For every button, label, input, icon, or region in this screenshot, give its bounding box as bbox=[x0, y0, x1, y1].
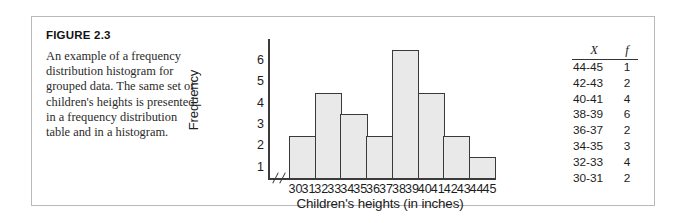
x-axis-tick-45: 45 bbox=[481, 182, 499, 196]
table-row: 32-334 bbox=[572, 155, 638, 171]
histogram-bar-38-39 bbox=[392, 50, 419, 178]
cell-frequency: 3 bbox=[616, 139, 638, 155]
cell-frequency: 2 bbox=[616, 123, 638, 139]
table-row: 42-432 bbox=[572, 76, 638, 92]
figure-number-label: FIGURE 2.3 bbox=[46, 29, 198, 41]
histogram-bar-34-35 bbox=[340, 114, 367, 178]
cell-interval: 30-31 bbox=[572, 170, 616, 186]
frequency-distribution-table: X f 44-45142-43240-41438-39636-37234-353… bbox=[572, 43, 644, 186]
column-header-x: X bbox=[572, 43, 616, 60]
cell-interval: 40-41 bbox=[572, 92, 616, 108]
cell-frequency: 2 bbox=[616, 170, 638, 186]
table-row: 34-353 bbox=[572, 139, 638, 155]
x-axis-line bbox=[268, 178, 496, 180]
table-row: 38-396 bbox=[572, 107, 638, 123]
cell-frequency: 2 bbox=[616, 76, 638, 92]
figure-caption-text: An example of a frequency distribution h… bbox=[46, 49, 198, 140]
y-axis-tick-1: 1 bbox=[250, 161, 264, 173]
cell-frequency: 6 bbox=[616, 107, 638, 123]
cell-frequency: 1 bbox=[616, 60, 638, 76]
y-axis-tick-2: 2 bbox=[250, 139, 264, 151]
table-row: 36-372 bbox=[572, 123, 638, 139]
histogram-bar-40-41 bbox=[418, 93, 445, 178]
table-header-row: X f bbox=[572, 43, 638, 60]
y-axis-tick-5: 5 bbox=[250, 75, 264, 87]
column-header-f: f bbox=[616, 43, 638, 60]
table-row: 40-414 bbox=[572, 92, 638, 108]
histogram-bar-36-37 bbox=[366, 136, 393, 179]
x-axis-title: Children's heights (in inches) bbox=[252, 196, 508, 211]
figure-caption-block: FIGURE 2.3 An example of a frequency dis… bbox=[46, 29, 198, 140]
cell-interval: 36-37 bbox=[572, 123, 616, 139]
table-row: 44-451 bbox=[572, 60, 638, 76]
table-row: 30-312 bbox=[572, 170, 638, 186]
y-axis-tick-3: 3 bbox=[250, 118, 264, 130]
histogram-chart: Frequency 654321 30313233343536373839404… bbox=[192, 23, 512, 207]
y-axis-tick-labels: 654321 bbox=[250, 43, 264, 179]
y-axis-tick-4: 4 bbox=[250, 97, 264, 109]
figure-panel: FIGURE 2.3 An example of a frequency dis… bbox=[31, 16, 655, 206]
cell-frequency: 4 bbox=[616, 92, 638, 108]
cell-interval: 34-35 bbox=[572, 139, 616, 155]
histogram-bar-30-31 bbox=[289, 136, 316, 179]
plot-frame bbox=[268, 39, 496, 180]
cell-interval: 44-45 bbox=[572, 60, 616, 76]
cell-frequency: 4 bbox=[616, 155, 638, 171]
histogram-bar-44-45 bbox=[469, 157, 496, 178]
histogram-bars bbox=[289, 39, 496, 178]
cell-interval: 42-43 bbox=[572, 76, 616, 92]
y-axis-line bbox=[268, 39, 270, 180]
y-axis-title: Frequency bbox=[186, 41, 202, 159]
cell-interval: 32-33 bbox=[572, 155, 616, 171]
y-axis-tick-6: 6 bbox=[250, 54, 264, 66]
histogram-bar-42-43 bbox=[443, 136, 470, 179]
histogram-bar-32-33 bbox=[315, 93, 342, 178]
cell-interval: 38-39 bbox=[572, 107, 616, 123]
